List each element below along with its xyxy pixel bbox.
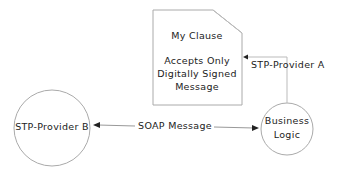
provider-b-label: STP-Provider B bbox=[15, 121, 89, 132]
soap-message-label: SOAP Message bbox=[138, 120, 212, 131]
diagram-canvas bbox=[0, 0, 339, 170]
arrowhead-left-icon bbox=[93, 122, 100, 128]
arrowhead-icon bbox=[243, 55, 248, 60]
document-line-1: Accepts Only bbox=[164, 55, 230, 66]
document-line-3: Message bbox=[175, 81, 219, 92]
business-logic-label-2: Logic bbox=[274, 129, 300, 140]
provider-a-label: STP-Provider A bbox=[251, 59, 325, 70]
arrowhead-right-icon bbox=[252, 125, 259, 131]
document-line-2: Digitally Signed bbox=[157, 68, 237, 79]
document-title: My Clause bbox=[171, 30, 222, 41]
business-logic-label-1: Business bbox=[265, 115, 309, 126]
